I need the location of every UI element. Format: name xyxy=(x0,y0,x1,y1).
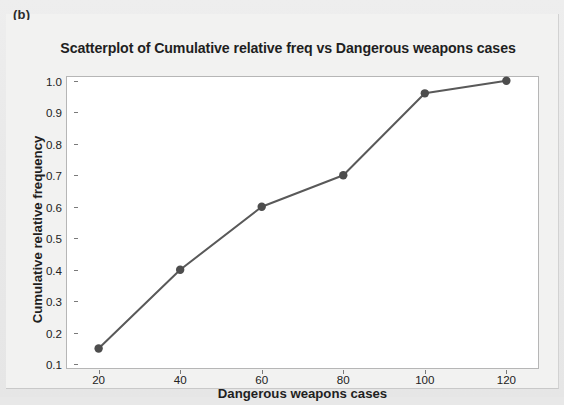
x-tick-label: 60 xyxy=(238,373,286,386)
x-axis-ticks: 20406080100120 xyxy=(6,14,564,405)
x-tick-mark xyxy=(506,370,507,374)
x-axis-title: Dangerous weapons cases xyxy=(66,386,539,401)
x-tick-mark xyxy=(425,370,426,374)
x-tick-label: 40 xyxy=(156,373,204,386)
chart-card: (b) Scatterplot of Cumulative relative f… xyxy=(6,14,559,389)
x-tick-mark xyxy=(262,370,263,374)
x-tick-mark xyxy=(99,370,100,374)
x-tick-label: 100 xyxy=(401,373,449,386)
x-tick-label: 120 xyxy=(482,373,530,386)
x-tick-label: 80 xyxy=(319,373,367,386)
x-tick-mark xyxy=(180,370,181,374)
x-tick-mark xyxy=(343,370,344,374)
x-tick-label: 20 xyxy=(75,373,123,386)
y-axis-title: Cumulative relative frequency xyxy=(30,80,45,380)
